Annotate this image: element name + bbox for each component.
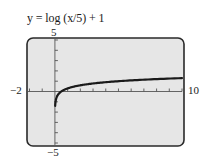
plot-frame [27,38,184,146]
graph-window [0,0,208,160]
